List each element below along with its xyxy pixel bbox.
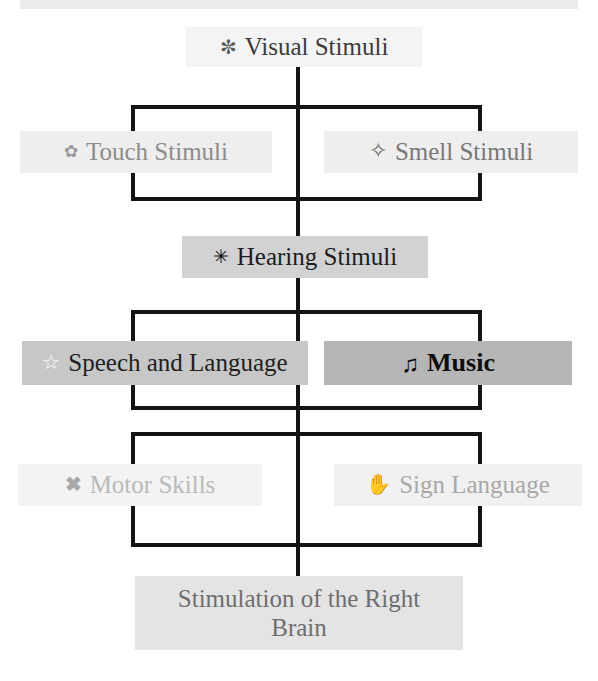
node-label: Smell Stimuli (395, 138, 533, 166)
connector-branch3-horizontal (131, 432, 482, 436)
connector-spine-branch1 (296, 105, 300, 238)
node-label: Sign Language (399, 471, 550, 499)
node-smell-stimuli[interactable]: ✧ Smell Stimuli (324, 131, 578, 173)
four-pointed-star-icon: ✧ (369, 138, 387, 164)
connector-spine-branch3 (296, 432, 300, 547)
node-touch-stimuli[interactable]: ✿ Touch Stimuli (20, 131, 272, 173)
connector-branch2-bottom-horizontal (131, 406, 482, 410)
node-label: Motor Skills (90, 471, 216, 499)
node-visual-stimuli[interactable]: ✼ Visual Stimuli (186, 27, 422, 67)
music-note-icon: ♫ (401, 351, 419, 378)
connector-branch1-bottom-horizontal (131, 197, 482, 201)
node-label: Hearing Stimuli (237, 243, 397, 271)
node-hearing-stimuli[interactable]: ✳ Hearing Stimuli (182, 236, 428, 278)
node-label: Speech and Language (68, 349, 287, 377)
clipped-box-top (20, 0, 578, 9)
node-music[interactable]: ♫ Music (324, 341, 572, 385)
rosette-icon: ✿ (64, 141, 78, 162)
flower-icon: ✼ (220, 35, 237, 59)
node-label: Stimulation of the Right Brain (169, 584, 429, 643)
node-sign-language[interactable]: ✋ Sign Language (334, 464, 582, 506)
diagram-canvas: ✼ Visual Stimuli ✿ Touch Stimuli ✧ Smell… (0, 0, 598, 681)
connector-branch2-horizontal (131, 310, 482, 314)
cross-mark-icon: ✖ (65, 472, 82, 496)
node-stimulation-of-the-right-brain[interactable]: Stimulation of the Right Brain (135, 576, 463, 650)
star-outline-icon: ☆ (42, 350, 60, 374)
eight-pointed-asterisk-icon: ✳ (213, 245, 229, 268)
node-speech-and-language[interactable]: ☆ Speech and Language (22, 341, 308, 385)
node-motor-skills[interactable]: ✖ Motor Skills (18, 464, 262, 506)
connector-hearing-to-branch2 (296, 278, 300, 314)
connector-branch1-horizontal (131, 105, 482, 109)
node-label: Music (427, 348, 495, 378)
hand-sign-icon: ✋ (366, 472, 391, 496)
node-label: Touch Stimuli (86, 138, 228, 166)
node-label: Visual Stimuli (245, 33, 389, 61)
connector-visual-to-branch1 (296, 67, 300, 109)
connector-branch3-bottom-horizontal (131, 543, 482, 547)
